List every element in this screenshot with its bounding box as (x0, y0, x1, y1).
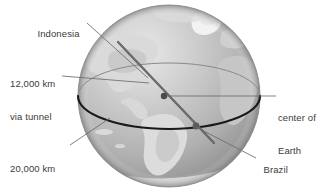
label-circle-distance: 20,000 km via circle (10, 141, 55, 193)
label-tunnel-distance: 12,000 km via tunnel (10, 56, 55, 133)
label-indonesia: Indonesia (32, 17, 80, 39)
label-tunnel-line1: 12,000 km (10, 78, 55, 89)
label-brazil: Brazil (258, 153, 288, 175)
label-indonesia-text: Indonesia (37, 28, 79, 39)
label-circle-line1: 20,000 km (10, 163, 55, 174)
globe (78, 3, 260, 193)
label-brazil-text: Brazil (263, 164, 287, 175)
center-of-earth-point (161, 93, 167, 99)
label-tunnel-line2: via tunnel (10, 111, 55, 122)
label-center-line1: center of (278, 112, 316, 123)
